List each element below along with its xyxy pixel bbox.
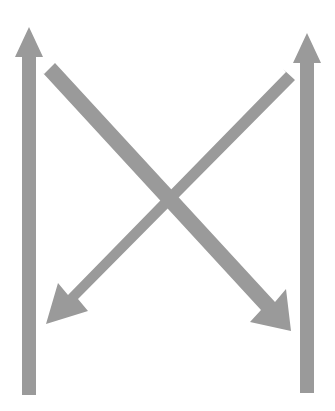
diagram-canvas xyxy=(0,0,335,411)
arrows-diagram xyxy=(0,0,335,411)
